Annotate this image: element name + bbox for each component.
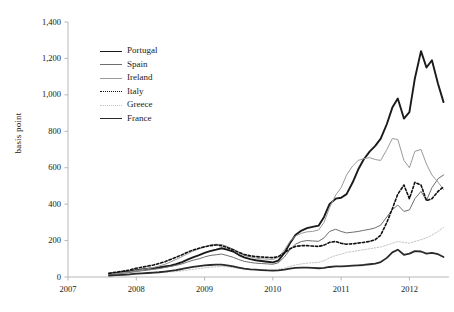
- legend-swatch-icon: [100, 113, 122, 123]
- legend-label: Greece: [127, 100, 152, 109]
- legend-label: Portugal: [127, 46, 158, 55]
- legend-swatch-icon: [100, 73, 122, 83]
- legend-label: Ireland: [127, 73, 152, 82]
- series-line-portugal: [109, 51, 444, 274]
- legend-swatch-icon: [100, 86, 122, 96]
- plot-area: [0, 0, 454, 312]
- series-line-ireland: [109, 139, 444, 275]
- legend-swatch-icon: [100, 100, 122, 110]
- legend-item-portugal[interactable]: Portugal: [100, 44, 158, 58]
- legend-swatch-icon: [100, 59, 122, 69]
- legend-item-greece[interactable]: Greece: [100, 98, 158, 112]
- chart-container: basis point 02004006008001,0001,2001,400…: [0, 0, 454, 312]
- legend-label: Spain: [127, 60, 148, 69]
- legend-item-italy[interactable]: Italy: [100, 85, 158, 99]
- series-line-france: [109, 250, 444, 276]
- chart-legend: PortugalSpainIrelandItalyGreeceFrance: [100, 44, 158, 125]
- legend-item-spain[interactable]: Spain: [100, 58, 158, 72]
- legend-label: Italy: [127, 87, 144, 96]
- series-line-spain: [109, 175, 444, 274]
- legend-item-ireland[interactable]: Ireland: [100, 71, 158, 85]
- legend-label: France: [127, 114, 152, 123]
- legend-swatch-icon: [100, 46, 122, 56]
- legend-item-france[interactable]: France: [100, 112, 158, 126]
- series-line-italy: [109, 182, 444, 273]
